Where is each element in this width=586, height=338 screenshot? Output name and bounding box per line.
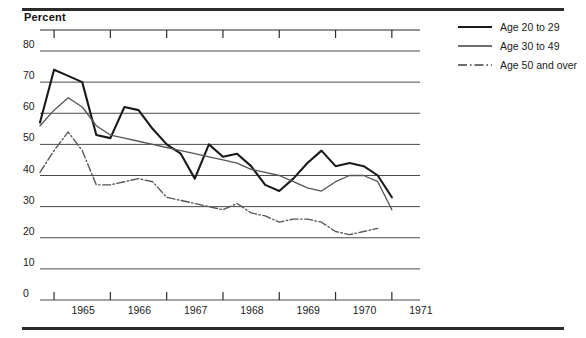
y-axis-title: Percent [24, 11, 66, 23]
legend-swatch-solid-gray [458, 41, 492, 51]
plot-svg [22, 24, 420, 306]
y-tick-label: 60 [23, 100, 35, 112]
series-line-2 [40, 132, 378, 235]
plot-area [22, 24, 420, 306]
y-tick-label: 10 [23, 256, 35, 268]
legend-item-age-30-to-49: Age 30 to 49 [458, 37, 584, 54]
legend-item-age-20-to-29: Age 20 to 29 [458, 18, 584, 35]
top-rule [22, 8, 564, 11]
y-tick-label: 80 [23, 38, 35, 50]
x-tick-label: 1971 [392, 304, 450, 316]
y-tick-label: 20 [23, 225, 35, 237]
series-line-0 [40, 70, 392, 198]
legend-item-age-50-and-over: Age 50 and over [458, 56, 584, 73]
y-tick-label: 50 [23, 131, 35, 143]
y-tick-label: 40 [23, 163, 35, 175]
legend-label-age-50-and-over: Age 50 and over [500, 59, 577, 71]
y-tick-label: 30 [23, 194, 35, 206]
y-tick-label: 70 [23, 69, 35, 81]
x-tick-label: 1965 [54, 304, 112, 316]
legend-label-age-30-to-49: Age 30 to 49 [500, 40, 560, 52]
x-tick-label: 1968 [223, 304, 281, 316]
y-tick-label: 0 [23, 287, 29, 299]
x-tick-label: 1970 [336, 304, 394, 316]
legend-swatch-solid-dark [458, 22, 492, 32]
chart-figure: Percent 01020304050607080 19651966196719… [0, 0, 586, 338]
x-tick-label: 1966 [110, 304, 168, 316]
chart-legend: Age 20 to 29 Age 30 to 49 Age 50 and ove… [458, 18, 584, 75]
x-tick-label: 1969 [279, 304, 337, 316]
bottom-rule [22, 327, 564, 330]
legend-label-age-20-to-29: Age 20 to 29 [500, 21, 560, 33]
x-tick-label: 1967 [167, 304, 225, 316]
legend-swatch-dash-dot [458, 60, 492, 70]
series-line-1 [40, 98, 392, 210]
